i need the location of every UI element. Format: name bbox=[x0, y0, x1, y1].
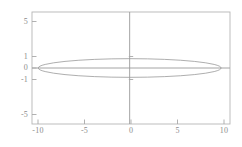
ytick-label-1: 1 bbox=[24, 53, 28, 61]
chart-figure: -10 -5 0 5 10 5 1 0 -1 -5 bbox=[0, 0, 242, 147]
xtick-label-4: 10 bbox=[220, 127, 228, 135]
ytick-label-3: -1 bbox=[21, 76, 28, 84]
xtick-label-3: 5 bbox=[175, 127, 179, 135]
y-axis-ticks bbox=[32, 22, 37, 115]
ytick-label-4: -5 bbox=[21, 111, 28, 119]
xtick-label-0: -10 bbox=[32, 127, 43, 135]
ytick-label-0: 5 bbox=[24, 18, 28, 26]
ytick-label-2: 0 bbox=[24, 64, 28, 72]
xtick-label-2: 0 bbox=[129, 127, 133, 135]
xtick-label-1: -5 bbox=[81, 127, 88, 135]
x-axis-ticks bbox=[38, 120, 224, 125]
plot-canvas bbox=[0, 0, 242, 147]
